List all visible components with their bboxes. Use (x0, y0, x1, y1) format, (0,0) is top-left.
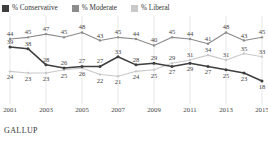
data-point (45, 33, 47, 35)
data-point (135, 63, 138, 66)
data-point (153, 62, 156, 65)
point-label: 18 (259, 83, 266, 90)
x-axis-tick-label: 2005 (75, 106, 89, 114)
point-label: 40 (151, 36, 158, 43)
source-label: GALLUP (4, 126, 38, 135)
point-label: 27 (205, 68, 212, 75)
data-point (243, 39, 245, 41)
data-point (27, 72, 29, 74)
x-axis-tick-label: 2013 (219, 106, 233, 114)
point-label: 24 (7, 73, 14, 80)
point-label: 47 (43, 25, 50, 32)
point-label: 43 (97, 32, 104, 39)
legend-label-conservative: % Conservative (12, 4, 58, 12)
x-axis-tick-label: 2015 (255, 106, 268, 114)
point-label: 38 (25, 40, 32, 47)
point-label: 28 (133, 56, 140, 63)
point-label: 28 (43, 56, 50, 63)
point-label: 45 (25, 28, 32, 35)
point-label: 25 (223, 72, 230, 79)
data-point (81, 31, 83, 33)
point-label: 48 (79, 23, 86, 30)
point-label: 26 (61, 59, 68, 66)
data-point (27, 36, 29, 38)
point-label: 25 (61, 72, 68, 79)
data-point (117, 36, 119, 38)
point-label: 27 (97, 57, 104, 64)
point-label: 27 (79, 57, 86, 64)
point-label: 21 (115, 78, 122, 85)
point-label: 23 (25, 75, 32, 82)
legend-swatch-moderate (72, 5, 79, 12)
data-point (153, 44, 155, 46)
point-label: 48 (223, 23, 230, 30)
legend-item-moderate: % Moderate (72, 4, 117, 12)
point-label: 34 (205, 46, 212, 53)
point-label: 45 (61, 28, 68, 35)
point-label: 31 (223, 51, 230, 58)
data-point (207, 43, 209, 45)
data-point (99, 39, 101, 41)
point-label: 44 (133, 30, 140, 37)
x-axis-tick-label: 2003 (39, 106, 53, 114)
legend-swatch-conservative (2, 5, 9, 12)
data-point (81, 65, 84, 68)
data-point (99, 65, 102, 68)
data-point (63, 36, 65, 38)
data-point (45, 72, 47, 74)
data-point (171, 62, 173, 64)
data-point (189, 59, 191, 61)
point-label: 33 (259, 48, 266, 55)
legend-item-liberal: % Liberal (131, 4, 170, 12)
data-point (207, 54, 209, 56)
point-label: 24 (133, 73, 140, 80)
point-label: 41 (205, 35, 212, 42)
point-label: 29 (187, 65, 194, 72)
legend-label-moderate: % Moderate (82, 4, 117, 12)
point-label: 35 (241, 45, 248, 52)
data-point (261, 56, 263, 58)
data-point (135, 70, 137, 72)
point-label: 27 (169, 68, 176, 75)
data-point (9, 46, 12, 49)
point-label: 45 (115, 28, 122, 35)
x-axis-tick-label: 2007 (111, 106, 125, 114)
point-label: 31 (187, 51, 194, 58)
point-label: 29 (169, 54, 176, 61)
data-point (171, 36, 173, 38)
data-point (99, 73, 101, 75)
point-label: 44 (7, 30, 14, 37)
data-point (117, 75, 119, 77)
data-point (135, 38, 137, 40)
data-point (225, 31, 227, 33)
data-point (117, 55, 120, 58)
x-axis-tick-label: 2001 (3, 106, 17, 114)
legend-item-conservative: % Conservative (2, 4, 58, 12)
data-point (45, 63, 48, 66)
data-point (63, 67, 66, 70)
x-axis-tick-label: 2011 (183, 106, 196, 114)
point-label: 45 (169, 28, 176, 35)
legend-swatch-liberal (131, 5, 138, 12)
point-label: 45 (259, 28, 266, 35)
data-point (243, 52, 245, 54)
data-point (189, 38, 191, 40)
chart-figure: % Conservative % Moderate % Liberal 4445… (0, 0, 268, 142)
chart-x-axis: 20012003200520072009201120132015 (0, 104, 268, 118)
point-label: 25 (151, 72, 158, 79)
point-label: 23 (43, 75, 50, 82)
chart-plot-area: 4445474548434544404544414843453938282627… (0, 14, 268, 104)
point-label: 43 (241, 32, 248, 39)
point-label: 22 (97, 77, 104, 84)
point-label: 33 (115, 48, 122, 55)
data-point (225, 59, 227, 61)
point-label: 39 (7, 38, 14, 45)
legend-label-liberal: % Liberal (141, 4, 170, 12)
point-label: 44 (187, 30, 194, 37)
data-point (27, 47, 30, 50)
data-point (153, 69, 155, 71)
data-point (9, 70, 11, 72)
data-point (261, 36, 263, 38)
point-label: 29 (151, 54, 158, 61)
point-label: 26 (79, 70, 86, 77)
